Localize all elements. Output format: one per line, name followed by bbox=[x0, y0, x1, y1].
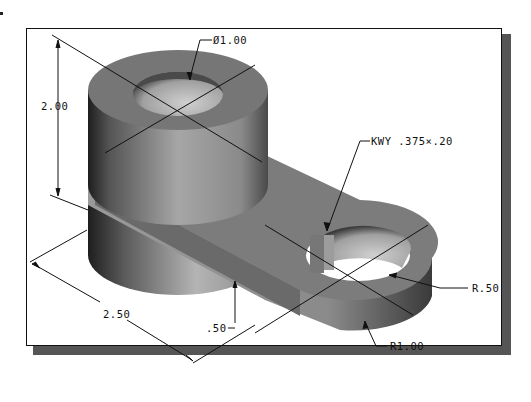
part-drawing: 2.00 Ø1.00 KWY .375×.20 R.50 R1.00 2.50 … bbox=[0, 0, 531, 402]
dim-keyway-label: KWY .375×.20 bbox=[371, 135, 453, 147]
dim-thickness bbox=[228, 281, 237, 328]
dim-end-radius-label: R1.00 bbox=[390, 340, 424, 352]
boss-upper bbox=[88, 50, 268, 225]
dim-length-label: 2.50 bbox=[103, 308, 130, 320]
dim-height-label: 2.00 bbox=[41, 100, 68, 112]
dim-hole-radius-label: R.50 bbox=[472, 282, 499, 294]
dim-height bbox=[50, 40, 88, 210]
dim-thickness-label: .50 bbox=[206, 322, 226, 334]
dim-diameter-label: Ø1.00 bbox=[213, 34, 247, 46]
